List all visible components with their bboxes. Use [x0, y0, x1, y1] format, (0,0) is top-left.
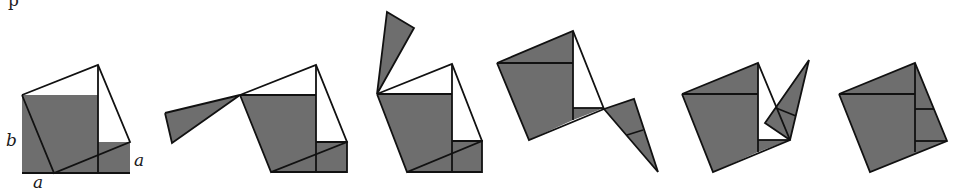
- shaded-piece: [377, 94, 452, 172]
- shaded-piece: [604, 99, 658, 172]
- shaded-piece: [452, 141, 482, 172]
- label-a-bottom: a: [33, 174, 43, 191]
- figure-stage-3: [377, 12, 482, 172]
- figure-stage-5: [682, 60, 809, 172]
- label-a-right: a: [134, 152, 144, 169]
- shaded-piece: [839, 63, 947, 172]
- figure-stage-1: [22, 65, 130, 173]
- shaded-piece: [573, 108, 604, 120]
- figure-stage-4: [497, 31, 658, 172]
- shaded-piece: [98, 142, 130, 173]
- figure-stage-6: [839, 63, 947, 172]
- label-b: b: [6, 132, 17, 149]
- shaded-piece: [316, 142, 347, 172]
- shaded-piece: [240, 95, 316, 172]
- figure-stage-2: [165, 65, 347, 172]
- shaded-piece: [22, 95, 98, 173]
